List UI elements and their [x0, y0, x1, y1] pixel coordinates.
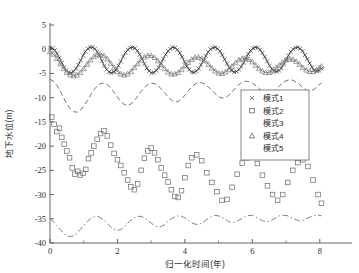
x-marker	[246, 52, 250, 56]
square-marker	[186, 163, 191, 168]
square-marker	[125, 178, 130, 183]
square-marker	[162, 173, 167, 178]
x-marker	[268, 64, 272, 68]
square-marker	[210, 180, 215, 185]
y-axis-title: 地下水位(m)	[4, 109, 14, 158]
square-marker	[119, 163, 124, 168]
square-marker	[169, 187, 174, 192]
x-marker	[135, 49, 139, 53]
x-marker	[218, 49, 222, 53]
x-marker	[178, 51, 182, 55]
square-marker	[152, 151, 157, 156]
x-marker	[225, 62, 229, 66]
x-marker	[303, 53, 307, 57]
legend-label-2: 模式2	[263, 106, 284, 116]
square-marker	[280, 192, 285, 197]
x-tick-label: 4	[183, 246, 188, 256]
legend: 模式1模式2模式3模式4模式5	[241, 90, 309, 160]
square-marker	[142, 156, 147, 161]
square-marker	[129, 185, 134, 190]
square-marker	[108, 143, 113, 148]
square-marker	[179, 188, 184, 193]
square-marker	[316, 192, 321, 197]
square-marker	[122, 170, 127, 175]
legend-label-1: 模式1	[263, 93, 284, 103]
chart-canvas: 50-5-10-15-20-25-30-35-4002468归一化时间(年)地下…	[0, 0, 359, 273]
x-marker	[239, 65, 243, 69]
square-marker	[319, 201, 324, 206]
square-marker	[159, 166, 164, 171]
square-marker	[270, 192, 275, 197]
x-marker	[102, 64, 106, 68]
square-marker	[199, 158, 204, 163]
square-marker	[296, 160, 301, 165]
x-marker	[258, 48, 262, 52]
x-marker	[175, 48, 179, 52]
square-marker	[54, 129, 59, 134]
square-marker	[139, 168, 144, 173]
x-marker	[142, 62, 146, 66]
y-tick-label: -35	[35, 214, 46, 224]
y-tick-label: -5	[39, 68, 46, 78]
x-marker	[301, 49, 305, 53]
square-marker	[194, 153, 199, 158]
y-tick-label: 5	[42, 20, 46, 30]
square-marker	[52, 122, 57, 127]
square-marker	[306, 164, 311, 169]
y-tick-label: 0	[42, 44, 46, 54]
square-marker	[102, 128, 107, 133]
x-marker	[124, 51, 128, 55]
x-marker	[145, 66, 149, 70]
square-marker	[89, 151, 94, 156]
groundwater-level-chart: 50-5-10-15-20-25-30-35-4002468归一化时间(年)地下…	[0, 0, 359, 273]
x-marker	[223, 57, 227, 61]
x-marker	[206, 50, 210, 54]
square-marker	[265, 184, 270, 189]
y-tick-label: -30	[35, 190, 46, 200]
series-5	[50, 215, 321, 236]
square-marker	[60, 135, 65, 140]
x-marker	[74, 67, 78, 71]
square-marker	[70, 166, 75, 171]
square-marker	[290, 168, 295, 173]
square-marker	[205, 170, 210, 175]
square-marker	[183, 175, 188, 180]
square-marker	[62, 142, 67, 147]
square-marker	[166, 180, 171, 185]
x-marker	[83, 50, 87, 54]
square-marker	[275, 198, 280, 203]
x-marker	[260, 51, 264, 55]
x-marker	[164, 53, 168, 57]
x-axis-title: 归一化时间(年)	[165, 259, 225, 269]
x-marker	[305, 57, 309, 61]
x-marker	[310, 65, 314, 69]
square-marker	[132, 187, 137, 192]
square-marker	[105, 134, 110, 139]
square-marker	[189, 155, 194, 160]
x-marker	[157, 66, 161, 70]
square-marker	[220, 198, 225, 203]
legend-label-4: 模式4	[263, 131, 284, 141]
x-tick-label: 6	[250, 246, 254, 256]
x-marker	[197, 67, 201, 71]
x-marker	[263, 55, 267, 59]
square-marker	[98, 131, 103, 136]
x-marker	[138, 53, 142, 57]
series-line	[50, 215, 321, 236]
x-marker	[265, 59, 269, 63]
square-marker	[57, 126, 62, 131]
y-tick-label: -40	[35, 238, 46, 248]
x-marker	[116, 64, 120, 68]
square-marker	[149, 146, 154, 151]
square-marker	[240, 161, 245, 166]
legend-label-3: 模式3	[263, 118, 284, 128]
legend-label-5: 模式5	[263, 143, 284, 153]
x-tick-label: 0	[48, 246, 52, 256]
square-marker	[65, 149, 70, 154]
x-marker	[81, 54, 85, 58]
square-marker	[156, 157, 161, 162]
square-marker	[260, 173, 265, 178]
y-tick-label: -20	[35, 141, 46, 151]
x-marker	[76, 63, 80, 67]
square-marker	[115, 157, 120, 162]
